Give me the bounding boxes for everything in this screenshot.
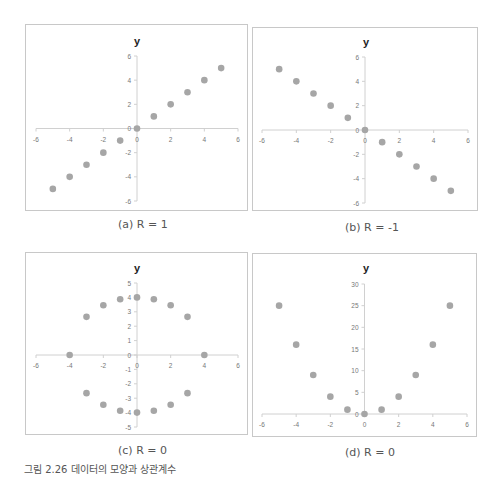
y-tick-label: 0 [127,352,131,359]
data-point [448,188,455,195]
data-point [430,175,437,182]
x-tick-label: -2 [100,136,106,143]
data-point [100,302,107,309]
data-point [117,137,124,144]
x-tick-label: -4 [67,362,73,369]
x-tick-label: -6 [259,421,265,428]
data-point [447,302,454,309]
y-tick-label: 1 [127,337,131,344]
x-tick-label: 4 [432,137,436,144]
x-tick-label: 4 [203,362,207,369]
x-tick-label: -2 [100,362,106,369]
x-tick-label: -6 [33,362,39,369]
y-tick-label: -2 [125,380,131,387]
caption-d: (d) R = 0 [345,446,395,459]
data-point [413,163,420,170]
x-tick-label: 4 [431,421,435,428]
data-point [184,390,191,397]
data-point [151,296,158,303]
data-point [66,352,73,359]
data-point [201,77,208,84]
x-tick-label: 0 [135,136,139,143]
x-tick-label: 6 [236,136,240,143]
data-point [327,102,334,109]
y-tick-label: 2 [127,323,131,330]
data-point [430,341,437,348]
y-tick-label: 10 [351,367,359,374]
data-point [151,407,158,414]
y-tick-label: 4 [127,294,131,301]
data-point [293,78,300,85]
y-tick-label: 0 [355,411,359,418]
x-tick-label: -6 [33,136,39,143]
x-tick-label: 6 [236,362,240,369]
y-tick-label: 0 [355,127,359,134]
x-tick-label: 6 [465,421,469,428]
data-point [134,409,141,416]
caption-c: (c) R = 0 [118,444,167,457]
data-point [412,372,419,379]
y-tick-label: -2 [125,149,131,156]
data-point [345,115,352,122]
x-tick-label: 2 [398,137,402,144]
data-point [276,302,283,309]
x-tick-label: 2 [169,136,173,143]
data-point [83,390,90,397]
data-point [167,402,174,409]
y-tick-label: 2 [355,102,359,109]
data-point [117,407,124,414]
data-point [362,127,369,134]
x-tick-label: 0 [363,137,367,144]
data-point [395,393,402,400]
data-point [276,66,283,73]
x-tick-label: -4 [293,421,299,428]
y-tick-label: 4 [355,78,359,85]
data-point [66,174,73,181]
data-point [310,372,317,379]
x-tick-label: 2 [397,421,401,428]
x-tick-label: 0 [135,362,139,369]
y-tick-label: -1 [125,366,131,373]
y-tick-label: 5 [127,280,131,287]
x-tick-label: 4 [203,136,207,143]
x-tick-label: 6 [466,137,470,144]
data-point [117,296,124,303]
data-point [100,402,107,409]
figure-caption: 그림 2.26 데이터의 모양과 상관계수 [24,461,176,476]
data-point [361,411,368,418]
data-point [379,139,386,146]
y-tick-label: 0 [127,125,131,132]
data-point [327,393,334,400]
y-tick-label: -5 [125,424,131,431]
y-tick-label: 2 [127,101,131,108]
data-point [310,90,317,97]
y-tick-label: -4 [125,173,131,180]
y-tick-label: -4 [125,409,131,416]
data-point [218,65,225,72]
axis-title-y: y [363,262,370,274]
y-tick-label: 30 [351,281,359,288]
x-tick-label: -2 [327,421,333,428]
data-point [83,314,90,321]
x-tick-label: -4 [67,136,73,143]
y-tick-label: 25 [351,302,359,309]
axis-title-y: y [134,35,141,47]
x-tick-label: -2 [328,137,334,144]
y-tick-label: -4 [353,175,359,182]
data-point [151,113,158,120]
data-point [396,151,403,158]
y-tick-label: 5 [355,389,359,396]
data-point [184,89,191,96]
data-point [167,101,174,108]
caption-a: (a) R = 1 [118,218,168,231]
y-tick-label: 6 [355,54,359,61]
data-point [50,186,57,193]
data-point [378,406,385,413]
data-point [293,341,300,348]
axis-title-y: y [363,36,370,48]
y-tick-label: 3 [127,308,131,315]
data-point [167,302,174,309]
y-tick-label: -2 [353,151,359,158]
x-tick-label: 2 [169,362,173,369]
scatter-plots-svg: -6-4-20246-6-4-20246y-6-4-20246-6-4-2024… [0,0,504,490]
